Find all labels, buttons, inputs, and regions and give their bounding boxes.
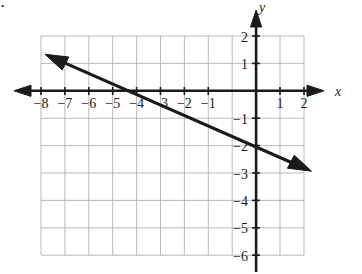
line-arrow-right: [288, 155, 312, 171]
plotted-line: [45, 54, 312, 171]
x-axis-arrow-left: [14, 85, 31, 96]
graph-figure: .: [0, 0, 362, 274]
x-tick-label: −5: [105, 96, 120, 111]
y-tick-labels: 2 1 −1 −2 −3 −4 −5 −6: [233, 30, 248, 264]
x-tick-label: −1: [201, 96, 216, 111]
y-tick-label: −1: [233, 112, 248, 127]
y-axis-label: y: [257, 0, 266, 15]
x-tick-label: 1: [277, 96, 284, 111]
x-tick-label: −7: [57, 96, 72, 111]
x-tick-label: 2: [301, 96, 308, 111]
axes: [14, 10, 324, 272]
y-tick-label: −5: [233, 221, 248, 236]
x-tick-label: −2: [177, 96, 192, 111]
x-axis-arrow-right: [307, 85, 324, 96]
x-axis-label: x: [334, 84, 342, 99]
y-tick-label: −4: [233, 194, 248, 209]
y-tick-label: −3: [233, 167, 248, 182]
x-tick-label: −8: [34, 96, 49, 111]
y-tick-label: 2: [241, 30, 248, 45]
y-tick-label: −6: [233, 249, 248, 264]
coordinate-plane: −8 −7 −6 −5 −4 −3 −2 −1 1 2 2 1 −1 −2 −3…: [0, 0, 362, 274]
x-tick-label: −6: [81, 96, 96, 111]
problem-number-marker: .: [1, 0, 3, 11]
y-tick-label: 1: [241, 57, 248, 72]
